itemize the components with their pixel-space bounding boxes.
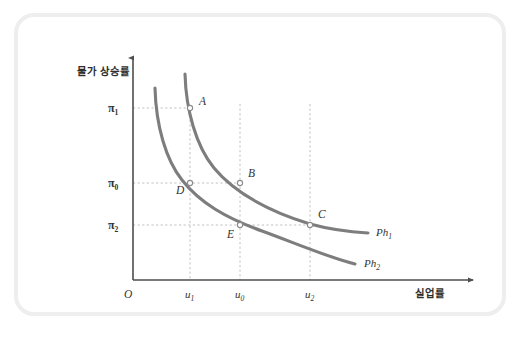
point-label-b: B xyxy=(248,167,255,179)
x-tick-u2: u2 xyxy=(305,288,315,303)
x-tick-u2-sub: 2 xyxy=(311,294,315,303)
point-dot-a xyxy=(187,105,192,110)
y-tick-labels: π1 π0 π2 xyxy=(108,101,119,234)
x-axis-title: 실업률 xyxy=(415,287,445,299)
x-tick-u0: u0 xyxy=(235,288,245,303)
point-label-e: E xyxy=(226,228,234,240)
y-tick-pi0: π0 xyxy=(108,176,119,192)
y-tick-pi2-sub: 2 xyxy=(115,225,119,234)
x-tick-labels: u1 u0 u2 O xyxy=(124,288,315,303)
y-tick-pi1: π1 xyxy=(108,101,119,117)
x-tick-u1: u1 xyxy=(185,288,194,303)
curve-label-ph1-base: Ph xyxy=(375,226,389,238)
origin-label: O xyxy=(124,288,133,300)
curve-label-ph2-base: Ph xyxy=(363,257,377,269)
figure-root: A B C D E π1 π0 π2 u1 u0 xyxy=(0,0,530,339)
point-dot-e xyxy=(237,222,242,227)
y-tick-pi0-sub: 0 xyxy=(115,183,119,192)
phillips-curve-chart: A B C D E π1 π0 π2 u1 u0 xyxy=(0,0,530,339)
curves xyxy=(155,74,368,264)
x-tick-u1-sub: 1 xyxy=(191,294,195,303)
point-label-a: A xyxy=(198,95,207,107)
y-tick-pi2: π2 xyxy=(108,218,119,234)
curve-label-ph1-sub: 1 xyxy=(388,232,392,241)
y-tick-pi1-sub: 1 xyxy=(115,108,119,117)
point-label-d: D xyxy=(175,184,185,196)
curve-label-ph1: Ph1 xyxy=(375,226,392,241)
x-tick-u0-sub: 0 xyxy=(241,294,245,303)
point-dot-d xyxy=(187,180,192,185)
curve-label-ph2: Ph2 xyxy=(363,257,380,272)
y-axis-title: 물가 상승률 xyxy=(77,65,130,77)
curve-label-ph2-sub: 2 xyxy=(376,263,380,272)
point-label-c: C xyxy=(318,208,326,220)
point-dot-c xyxy=(307,222,312,227)
point-labels: A B C D E xyxy=(175,95,326,240)
point-dot-b xyxy=(237,180,242,185)
